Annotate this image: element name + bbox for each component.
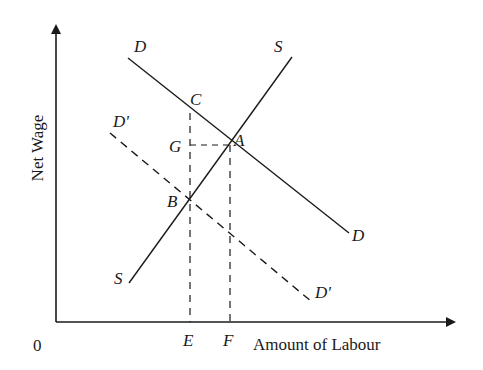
point-C-label: C	[190, 90, 202, 109]
shifted-demand-label-end: D'	[314, 283, 331, 302]
x-axis-label: Amount of Labour	[253, 335, 381, 354]
shifted-demand-label-start: D'	[112, 112, 129, 131]
point-B-label: B	[167, 192, 178, 211]
demand-label-start: D	[133, 37, 147, 56]
shifted-demand-curve	[110, 133, 312, 302]
origin-label: 0	[33, 336, 42, 355]
point-G-label: G	[169, 137, 181, 156]
demand-label-end: D	[351, 226, 365, 245]
supply-label-bottom: S	[114, 269, 123, 288]
point-E-label: E	[182, 331, 194, 350]
labour-market-diagram: Net Wage Amount of Labour 0 D D S S D' D…	[0, 0, 483, 370]
point-A-label: A	[233, 131, 245, 150]
supply-label-top: S	[274, 37, 283, 56]
y-axis-label: Net Wage	[28, 115, 47, 182]
point-F-label: F	[222, 331, 234, 350]
